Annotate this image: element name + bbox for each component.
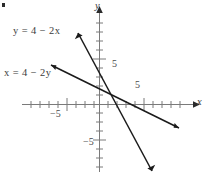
coordinate-plane-figure: y = 4 − 2x x = 4 − 2y y x 5 −5 5 −5 [0,0,207,181]
line-x-equals-4-minus-2y [51,65,179,128]
line1-equation-label: y = 4 − 2x [13,25,60,36]
x-axis-label: x [197,96,202,107]
x-axis-tick-label-neg5: −5 [50,108,61,119]
y-axis-tick-label-5: 5 [112,58,117,69]
line2-equation-label: x = 4 − 2y [4,67,51,78]
y-axis-tick-label-neg5: −5 [83,136,94,147]
line-y-equals-4-minus-2x [75,33,155,171]
x-axis-tick-label-5: 5 [135,79,140,90]
y-axis-label: y [95,0,100,11]
